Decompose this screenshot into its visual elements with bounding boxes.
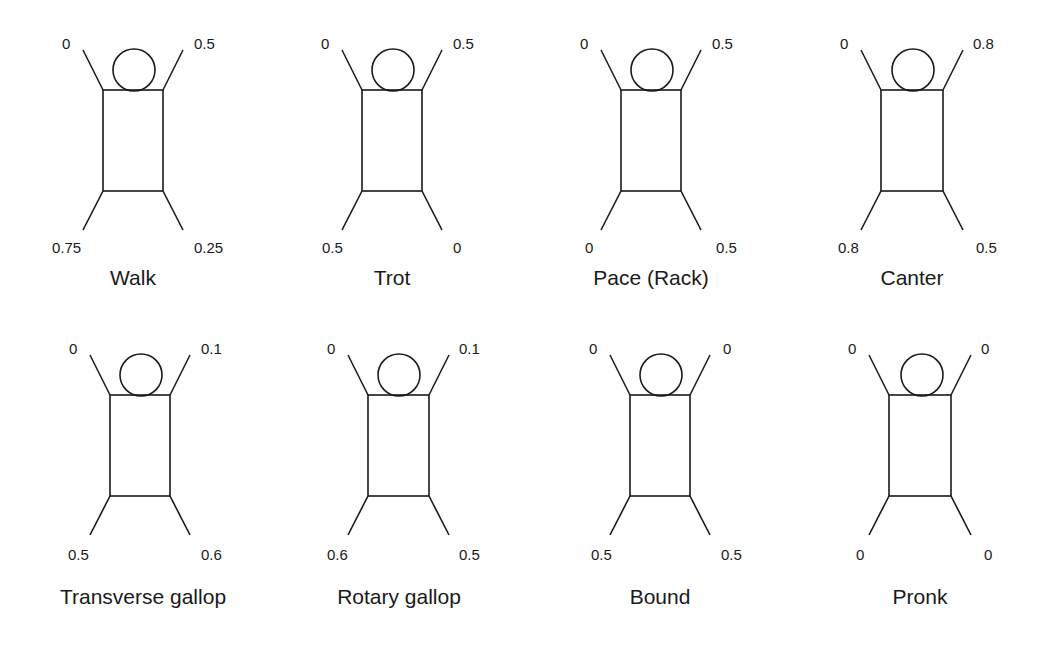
gait-caption: Canter [782,266,1042,290]
front-left-phase: 0 [321,36,329,52]
hind-right-phase: 0.5 [721,547,742,563]
hind-right-phase: 0 [453,240,461,256]
head-icon [631,49,673,91]
gait-rotary-gallop: 0 0.1 0.6 0.5 Rotary gallop [285,305,525,605]
front-right-phase: 0.1 [459,341,480,357]
head-icon [901,354,943,396]
gait-trot: 0 0.5 0.5 0 Trot [279,0,519,300]
hind-left-phase: 0.5 [68,547,89,563]
head-icon [120,354,162,396]
hind-right-phase: 0.6 [201,547,222,563]
front-right-phase: 0 [723,341,731,357]
front-right-phase: 0.8 [973,36,994,52]
front-left-phase: 0 [327,341,335,357]
front-left-phase: 0 [848,341,856,357]
front-right-phase: 0.1 [201,341,222,357]
gait-caption: Walk [3,266,263,290]
head-icon [378,354,420,396]
head-icon [372,49,414,91]
gait-canter: 0 0.8 0.8 0.5 Canter [798,0,1038,300]
gait-caption: Pace (Rack) [521,266,781,290]
hind-left-phase: 0.6 [327,547,348,563]
front-right-phase: 0.5 [194,36,215,52]
gait-caption: Bound [530,585,790,609]
hind-left-phase: 0.5 [591,547,612,563]
hind-left-phase: 0 [585,240,593,256]
head-icon [892,49,934,91]
front-left-phase: 0 [69,341,77,357]
body-icon [881,90,943,191]
gait-diagram-figure: 0 0.5 0.75 0.25 Walk 0 0.5 0.5 0 Trot [0,0,1049,646]
front-left-leg [83,50,103,90]
hind-right-phase: 0.25 [194,240,223,256]
hind-right-phase: 0 [984,547,992,563]
body-icon [368,395,429,496]
hind-left-phase: 0.8 [838,240,859,256]
hind-left-phase: 0.75 [52,240,81,256]
quadruped-figure-icon [27,305,267,605]
front-left-phase: 0 [62,36,70,52]
quadruped-figure-icon [279,0,519,300]
quadruped-figure-icon [285,305,525,605]
gait-caption: Pronk [790,585,1049,609]
front-right-phase: 0.5 [453,36,474,52]
hind-left-phase: 0 [856,547,864,563]
gait-pronk: 0 0 0 0 Pronk [806,305,1046,605]
quadruped-figure-icon [547,305,787,605]
front-left-phase: 0 [580,36,588,52]
head-icon [113,49,155,91]
gait-caption: Trot [262,266,522,290]
gait-pace-rack: 0 0.5 0 0.5 Pace (Rack) [538,0,778,300]
front-right-phase: 0 [981,341,989,357]
hind-right-phase: 0.5 [716,240,737,256]
hind-left-phase: 0.5 [322,240,343,256]
gait-caption: Rotary gallop [269,585,529,609]
quadruped-figure-icon [806,305,1046,605]
gait-caption: Transverse gallop [13,585,273,609]
quadruped-figure-icon [538,0,778,300]
hind-right-leg [163,191,183,230]
body-icon [103,90,163,191]
body-icon [110,395,170,496]
front-left-phase: 0 [840,36,848,52]
head-icon [640,354,682,396]
body-icon [630,395,690,496]
hind-left-leg [83,191,103,230]
gait-transverse-gallop: 0 0.1 0.5 0.6 Transverse gallop [27,305,267,605]
front-right-leg [163,50,183,90]
front-left-phase: 0 [589,341,597,357]
body-icon [362,90,422,191]
hind-right-phase: 0.5 [459,547,480,563]
hind-right-phase: 0.5 [976,240,997,256]
gait-bound: 0 0 0.5 0.5 Bound [547,305,787,605]
front-right-phase: 0.5 [712,36,733,52]
gait-walk: 0 0.5 0.75 0.25 Walk [20,0,260,300]
body-icon [889,395,951,496]
body-icon [621,90,681,191]
quadruped-figure-icon [798,0,1038,300]
